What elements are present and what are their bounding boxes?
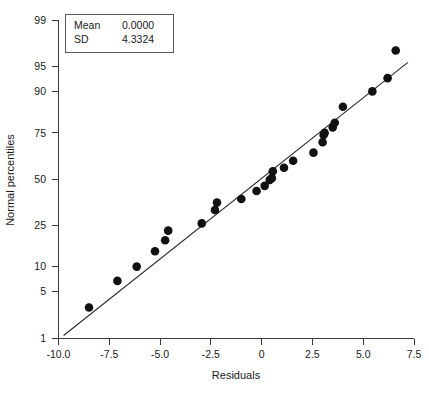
y-tick-label: 50 (34, 173, 46, 185)
y-tick-label: 1 (40, 332, 46, 344)
legend-mean-label: Mean (74, 19, 100, 31)
y-tick-label: 75 (34, 127, 46, 139)
x-tick-label: 2.5 (305, 348, 320, 360)
y-tick-label: 25 (34, 219, 46, 231)
plot-canvas: -10.0-7.5-5.0-2.502.55.07.5 151025507590… (0, 0, 429, 393)
data-point (309, 148, 318, 157)
normal-probability-plot-figure: -10.0-7.5-5.0-2.502.55.07.5 151025507590… (0, 0, 429, 393)
data-point (391, 46, 400, 55)
y-tick-label: 90 (34, 85, 46, 97)
x-tick-label: -7.5 (100, 348, 118, 360)
data-point (85, 303, 94, 312)
data-point (151, 247, 160, 256)
x-tick-label: 7.5 (407, 348, 422, 360)
y-tick-label: 5 (40, 285, 46, 297)
y-tick-label: 95 (34, 60, 46, 72)
x-axis-ticks: -10.0-7.5-5.0-2.502.55.07.5 (47, 339, 422, 361)
x-tick-label: -5.0 (151, 348, 169, 360)
legend-sd-value: 4.3324 (122, 33, 154, 45)
y-axis-ticks: 1510255075909599 (34, 14, 58, 344)
legend-sd-label: SD (74, 33, 89, 45)
legend-mean-value: 0.0000 (122, 19, 154, 31)
data-point (339, 102, 348, 111)
data-point (289, 156, 298, 165)
data-point (269, 167, 278, 176)
data-point (197, 219, 206, 228)
data-point (368, 87, 377, 96)
data-point (320, 129, 329, 138)
x-tick-label: -2.5 (202, 348, 220, 360)
statistics-legend: Mean 0.0000 SD 4.3324 (66, 15, 174, 53)
axes-group (59, 20, 415, 339)
data-point (383, 74, 392, 83)
x-tick-label: 5.0 (356, 348, 371, 360)
y-tick-label: 10 (34, 260, 46, 272)
x-axis-title: Residuals (212, 369, 261, 381)
data-point (252, 187, 261, 196)
reference-line (64, 62, 408, 335)
x-tick-label: 0 (259, 348, 265, 360)
y-tick-label: 99 (34, 14, 46, 26)
data-points-group (85, 46, 400, 312)
data-point (237, 195, 246, 204)
data-point (280, 164, 289, 173)
data-point (211, 206, 220, 215)
data-point (132, 262, 141, 271)
data-point (164, 226, 173, 235)
y-axis-title: Normal percentiles (4, 134, 16, 226)
data-point (330, 118, 339, 127)
fitted-reference-line (64, 62, 408, 335)
data-point (213, 198, 222, 207)
data-point (161, 236, 170, 245)
x-tick-label: -10.0 (47, 348, 71, 360)
data-point (113, 277, 122, 286)
